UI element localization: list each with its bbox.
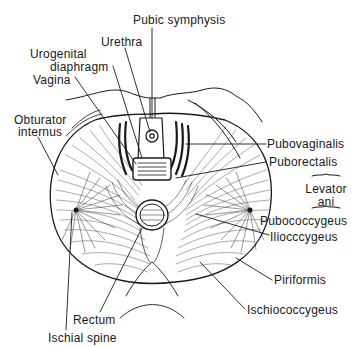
label-piriformis: Piriformis — [274, 274, 326, 287]
label-iliococcygeus: Iliocccygeus — [270, 231, 338, 244]
pubic-bone-outline — [66, 88, 262, 122]
brace-top — [312, 174, 340, 176]
label-urethra: Urethra — [101, 36, 142, 49]
label-obturator-line2: internus — [18, 126, 62, 139]
label-pubococcygeus: Pubococcygeus — [260, 215, 347, 228]
vagina-opening — [133, 158, 171, 180]
label-rectum: Rectum — [73, 314, 116, 327]
label-ischial-spine: Ischial spine — [48, 332, 117, 345]
label-vagina: Vagina — [33, 74, 71, 87]
label-pubic-symphysis: Pubic symphysis — [133, 14, 225, 27]
urethra-opening — [146, 130, 158, 142]
label-ischiococcygeus: Ischiococcygeus — [247, 304, 338, 317]
label-levator-line2: ani — [300, 196, 352, 209]
label-puborectalis: Puborectalis — [269, 156, 337, 169]
label-pubovaginalis: Pubovaginalis — [267, 138, 344, 151]
